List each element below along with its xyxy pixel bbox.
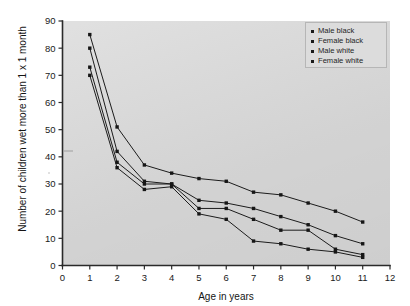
y-tick-label: 40 xyxy=(45,151,56,162)
x-tick-label: 1 xyxy=(87,272,92,283)
data-point xyxy=(197,199,200,202)
series-2 xyxy=(88,46,364,245)
legend-item: Male white xyxy=(311,46,383,56)
legend-marker-icon xyxy=(311,40,314,43)
series-3 xyxy=(88,65,364,256)
y-axis-title: Number of children wet more than 1 x 1 m… xyxy=(12,4,30,254)
data-point xyxy=(252,190,255,193)
data-point xyxy=(306,223,309,226)
data-point xyxy=(88,46,91,49)
x-tick-label: 4 xyxy=(169,272,174,283)
data-point xyxy=(143,163,146,166)
data-point xyxy=(88,74,91,77)
data-point xyxy=(252,207,255,210)
y-tick-label: 60 xyxy=(45,97,56,108)
y-tick-label: 30 xyxy=(45,178,56,189)
data-point xyxy=(197,212,200,215)
data-point xyxy=(88,33,91,36)
data-point xyxy=(115,150,118,153)
data-point xyxy=(252,218,255,221)
x-tick-label: 12 xyxy=(385,272,396,283)
data-point xyxy=(334,209,337,212)
x-tick-label: 7 xyxy=(251,272,256,283)
x-tick-group: 0123456789101112 xyxy=(60,266,395,283)
data-point xyxy=(334,250,337,253)
legend-item-label: Male black xyxy=(318,26,354,36)
data-point xyxy=(225,218,228,221)
data-point xyxy=(197,207,200,210)
x-tick-label: 3 xyxy=(142,272,147,283)
y-tick-label: 50 xyxy=(45,124,56,135)
y-tick-group: 0102030405060708090 xyxy=(45,15,63,271)
legend-item-label: Male white xyxy=(318,46,354,56)
legend-item: Female white xyxy=(311,56,383,66)
data-point xyxy=(197,177,200,180)
data-point xyxy=(225,180,228,183)
y-tick-label: 20 xyxy=(45,206,56,217)
x-tick-label: 11 xyxy=(358,272,368,283)
data-point xyxy=(252,239,255,242)
legend-item-label: Female white xyxy=(318,56,363,66)
data-point xyxy=(170,185,173,188)
data-point xyxy=(143,182,146,185)
series-line xyxy=(90,67,363,254)
data-point xyxy=(279,193,282,196)
data-point xyxy=(88,65,91,68)
x-tick-label: 9 xyxy=(305,272,310,283)
legend-item: Male black xyxy=(311,26,383,36)
x-tick-label: 5 xyxy=(196,272,201,283)
data-point xyxy=(361,256,364,259)
x-tick-label: 10 xyxy=(330,272,341,283)
data-point xyxy=(225,201,228,204)
legend-marker-icon xyxy=(311,30,314,33)
data-point xyxy=(279,228,282,231)
data-point xyxy=(334,234,337,237)
data-point xyxy=(306,201,309,204)
x-tick-label: 8 xyxy=(278,272,283,283)
data-point xyxy=(361,242,364,245)
y-tick-label: 0 xyxy=(50,260,55,271)
data-point xyxy=(306,228,309,231)
data-point xyxy=(306,248,309,251)
data-point xyxy=(361,220,364,223)
data-point xyxy=(279,242,282,245)
x-tick-label: 6 xyxy=(224,272,229,283)
x-tick-label: 2 xyxy=(114,272,119,283)
legend: Male black Female black Male white Femal… xyxy=(305,22,387,68)
legend-item: Female black xyxy=(311,36,383,46)
series-4 xyxy=(88,74,364,259)
data-point xyxy=(170,171,173,174)
chart-figure: 0102030405060708090 0123456789101112 Num… xyxy=(0,0,410,306)
data-point xyxy=(279,215,282,218)
y-tick-label: 80 xyxy=(45,43,56,54)
x-tick-label: 0 xyxy=(60,272,65,283)
data-point xyxy=(115,125,118,128)
data-point xyxy=(225,207,228,210)
legend-marker-icon xyxy=(311,60,314,63)
legend-item-label: Female black xyxy=(318,36,363,46)
x-axis-title: Age in years xyxy=(62,286,390,304)
legend-marker-icon xyxy=(311,50,314,53)
data-point xyxy=(143,188,146,191)
y-axis-title-text: Number of children wet more than 1 x 1 m… xyxy=(17,26,28,232)
y-tick-label: 10 xyxy=(45,233,56,244)
x-axis-title-text: Age in years xyxy=(198,291,254,302)
y-tick-label: 70 xyxy=(45,70,56,81)
data-point xyxy=(115,166,118,169)
y-tick-label: 90 xyxy=(45,15,56,26)
